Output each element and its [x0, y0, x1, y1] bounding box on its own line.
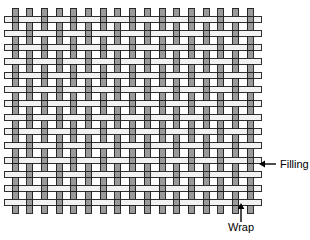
warp-float-segment [188, 185, 194, 191]
warp-float-segment [188, 129, 194, 135]
warp-float-segment [174, 171, 180, 177]
warp-float-segment [247, 72, 253, 78]
warp-float-segment [71, 72, 77, 78]
warp-float-segment [144, 30, 150, 36]
warp-float-segment [130, 101, 136, 107]
warp-float-segment [203, 115, 209, 121]
warp-float-segment [188, 16, 194, 22]
warp-float-segment [174, 30, 180, 36]
warp-float-segment [115, 143, 121, 149]
warp-float-segment [41, 44, 47, 50]
warp-float-segment [159, 185, 165, 191]
filling-thread [4, 171, 261, 177]
warp-float-segment [115, 87, 121, 93]
warp-thread [174, 8, 180, 213]
warp-float-segment [247, 157, 253, 163]
warp-float-segment [56, 58, 62, 64]
warp-float-segment [188, 101, 194, 107]
warp-float-segment [188, 44, 194, 50]
warp-float-segment [100, 16, 106, 22]
warp-float-segment [144, 171, 150, 177]
warp-thread [233, 8, 239, 213]
warp-float-segment [233, 199, 239, 205]
warp-float-segment [71, 157, 77, 163]
warp-float-segment [203, 30, 209, 36]
warp-float-segment [86, 199, 92, 205]
filling-thread [4, 87, 261, 93]
filling-label: Filling [280, 158, 309, 170]
warp-thread [71, 8, 77, 213]
warp-float-segment [247, 129, 253, 135]
warp-float-segment [71, 16, 77, 22]
warp-float-segment [115, 115, 121, 121]
warp-float-segment [56, 87, 62, 93]
filling-thread [4, 58, 261, 64]
warp-float-segment [12, 185, 18, 191]
warp-float-segment [203, 58, 209, 64]
warp-float-segment [27, 58, 33, 64]
warp-float-segment [41, 129, 47, 135]
warp-thread [86, 8, 92, 213]
warp-float-segment [100, 44, 106, 50]
warp-float-segment [218, 16, 224, 22]
warp-float-segment [233, 30, 239, 36]
warp-float-segment [188, 157, 194, 163]
warp-float-segment [218, 44, 224, 50]
warp-float-segment [86, 143, 92, 149]
warp-float-segment [130, 44, 136, 50]
warp-thread [144, 8, 150, 213]
warp-float-segment [12, 72, 18, 78]
warp-float-segment [144, 199, 150, 205]
warp-float-segment [41, 72, 47, 78]
warp-float-segment [233, 58, 239, 64]
warp-thread [188, 8, 194, 213]
warp-float-segment [86, 87, 92, 93]
warp-thread [130, 8, 136, 213]
warp-float-segment [203, 171, 209, 177]
warp-thread [247, 8, 253, 213]
warp-float-segment [27, 87, 33, 93]
warp-float-segment [203, 143, 209, 149]
warp-float-segment [12, 44, 18, 50]
warp-float-segment [174, 87, 180, 93]
warp-float-segment [159, 72, 165, 78]
warp-float-segment [247, 101, 253, 107]
warp-float-segment [218, 157, 224, 163]
warp-float-segment [27, 143, 33, 149]
warp-thread [218, 8, 224, 213]
warp-float-segment [159, 101, 165, 107]
warp-thread [203, 8, 209, 213]
warp-float-segment [159, 129, 165, 135]
warp-float-segment [12, 16, 18, 22]
warp-float-segment [71, 44, 77, 50]
warp-float-segment [27, 30, 33, 36]
warp-float-segment [218, 101, 224, 107]
warp-float-segment [56, 115, 62, 121]
warp-float-segment [41, 101, 47, 107]
warp-float-segment [56, 30, 62, 36]
warp-float-segment [86, 30, 92, 36]
warp-float-segment [56, 199, 62, 205]
warp-float-segment [188, 72, 194, 78]
warp-float-segment [86, 58, 92, 64]
warp-float-segment [218, 185, 224, 191]
warp-float-segment [159, 44, 165, 50]
warp-float-segment [233, 171, 239, 177]
warp-float-segment [130, 157, 136, 163]
warp-thread [27, 8, 33, 213]
warp-float-segment [247, 16, 253, 22]
warp-float-segment [100, 101, 106, 107]
warp-float-segment [247, 44, 253, 50]
warp-float-segment [12, 129, 18, 135]
warp-float-segment [56, 171, 62, 177]
warp-float-segment [12, 157, 18, 163]
warp-float-segment [71, 129, 77, 135]
warp-float-segment [100, 72, 106, 78]
warp-float-segment [144, 58, 150, 64]
warp-float-segment [41, 157, 47, 163]
warp-float-segment [159, 16, 165, 22]
wrap-label: Wrap [228, 221, 254, 233]
warp-thread [115, 8, 121, 213]
warp-float-segment [27, 115, 33, 121]
warp-float-segment [174, 199, 180, 205]
